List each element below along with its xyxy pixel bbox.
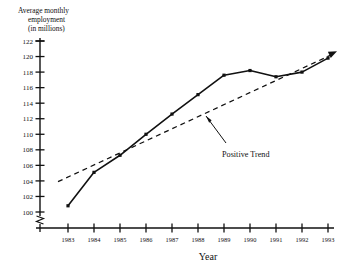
y-axis-tick-label: 100 <box>23 209 34 217</box>
employment-trend-chart: Average monthly employment (in millions)… <box>0 0 359 267</box>
y-axis-tick-label: 114 <box>23 100 34 108</box>
x-axis-tick-label: 1984 <box>88 236 102 243</box>
data-point-marker <box>326 57 329 60</box>
x-axis-tick-label: 1983 <box>62 236 75 243</box>
x-axis-tick-label: 1987 <box>166 236 180 243</box>
x-axis-label: Year <box>199 251 218 262</box>
x-axis-tick-label: 1991 <box>270 236 283 243</box>
y-axis-tick-label: 122 <box>23 38 34 46</box>
y-axis-title-line-1: Average monthly <box>18 6 69 15</box>
data-point-marker <box>66 204 69 207</box>
y-axis-tick-label: 116 <box>23 84 34 92</box>
data-point-marker <box>170 112 173 115</box>
y-axis-title-line-2: employment <box>28 15 66 24</box>
x-axis-tick-label: 1990 <box>244 236 257 243</box>
chart-canvas: Average monthly employment (in millions)… <box>0 0 359 267</box>
x-axis-tick-label: 1988 <box>192 236 205 243</box>
y-axis-tick-label: 102 <box>23 193 34 201</box>
y-axis-tick-label: 104 <box>23 178 34 186</box>
x-axis-tick-label: 1989 <box>218 236 231 243</box>
y-axis-tick-label: 118 <box>23 69 34 77</box>
data-point-marker <box>92 171 95 174</box>
data-point-marker <box>300 70 303 73</box>
x-axis-tick-label: 1986 <box>140 236 153 243</box>
y-axis-tick-label: 120 <box>23 53 34 61</box>
y-axis-title-line-3: (in millions) <box>28 24 65 33</box>
data-point-marker <box>274 75 277 78</box>
x-axis-tick-label: 1992 <box>296 236 309 243</box>
y-axis-tick-label: 110 <box>23 131 34 139</box>
chart-background <box>0 0 359 267</box>
x-axis-tick-label: 1993 <box>322 236 335 243</box>
data-point-marker <box>222 74 225 77</box>
x-axis-tick-label: 1985 <box>114 236 127 243</box>
y-axis-tick-label: 108 <box>23 146 34 154</box>
data-point-marker <box>248 69 251 72</box>
y-axis-tick-label: 106 <box>23 162 34 170</box>
data-point-marker <box>196 93 199 96</box>
data-point-marker <box>144 133 147 136</box>
y-axis-tick-label: 112 <box>23 115 34 123</box>
annotation-label: Positive Trend <box>222 150 270 159</box>
data-point-marker <box>118 154 121 157</box>
